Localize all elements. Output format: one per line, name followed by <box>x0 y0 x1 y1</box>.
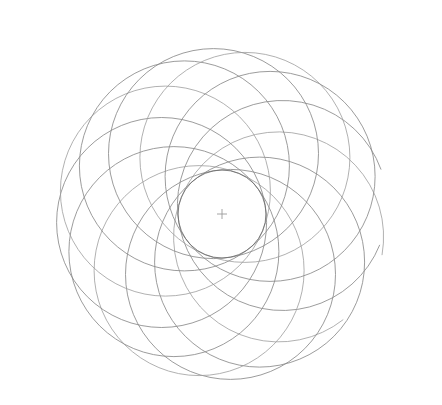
drawing-canvas <box>0 0 442 405</box>
canvas-background <box>0 0 442 405</box>
spirograph-figure <box>0 0 442 405</box>
